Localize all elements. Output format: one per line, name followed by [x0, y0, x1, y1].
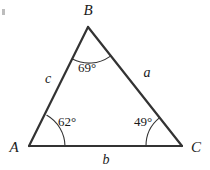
side-label-b: b [103, 152, 110, 167]
side-label-c: c [45, 71, 52, 86]
triangle-figure: A B C a b c 62° 69° 49° [0, 0, 210, 170]
angle-label-b: 69° [78, 60, 96, 75]
geometry-diagram-canvas: A B C a b c 62° 69° 49° [0, 0, 210, 170]
vertex-label-a: A [8, 139, 19, 155]
angle-label-a: 62° [58, 114, 76, 129]
vertex-label-c: C [191, 139, 202, 155]
side-label-a: a [144, 65, 151, 80]
angle-label-c: 49° [134, 114, 152, 129]
vertex-label-b: B [83, 2, 92, 18]
